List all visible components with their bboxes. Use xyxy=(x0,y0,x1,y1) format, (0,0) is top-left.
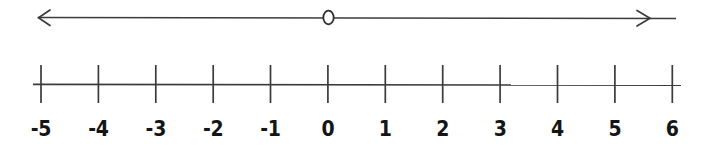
tick-label--1: -1 xyxy=(260,117,280,141)
tick-label--4: -4 xyxy=(88,117,108,141)
tick-label--2: -2 xyxy=(203,117,223,141)
tick-label--3: -3 xyxy=(146,117,166,141)
number-line-worksheet: -5 -4 -3 -2 -1 0 1 2 3 4 5 6 xyxy=(0,0,726,161)
tick-label-6: 6 xyxy=(666,117,679,141)
tick-label-4: 4 xyxy=(551,117,564,141)
tick-label-5: 5 xyxy=(608,117,621,141)
tick-label--5: -5 xyxy=(31,117,51,141)
tick-label-3: 3 xyxy=(494,117,507,141)
tick-label-2: 2 xyxy=(436,117,449,141)
tick-label-group: -5 -4 -3 -2 -1 0 1 2 3 4 5 6 xyxy=(0,0,726,161)
tick-label-1: 1 xyxy=(379,117,392,141)
tick-label-0: 0 xyxy=(321,117,334,141)
